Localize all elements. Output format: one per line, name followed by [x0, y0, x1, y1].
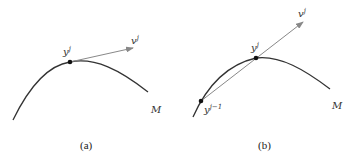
label-yj-b: yj — [250, 41, 260, 53]
label-yj-minus-1-b: yj−1 — [203, 103, 222, 115]
caption-a: (a) — [80, 139, 93, 152]
manifold-curve-a — [13, 61, 148, 120]
caption-b: (b) — [258, 139, 271, 152]
point-yj-b — [254, 56, 259, 61]
secant-vector-b — [201, 22, 303, 101]
label-manifold-b: M — [331, 100, 343, 111]
point-yj-a — [68, 60, 73, 65]
point-yj-minus-1-b — [199, 99, 204, 104]
tangent-vector-a — [70, 48, 133, 62]
panel-b: yj yj−1 vj M (b) — [193, 7, 343, 152]
figure-canvas: yj vj M (a) yj yj−1 vj M (b) — [0, 0, 353, 162]
label-manifold-a: M — [150, 104, 162, 115]
label-yj-a: yj — [62, 45, 72, 57]
label-vj-b: vj — [298, 7, 307, 19]
panel-a: yj vj M (a) — [13, 34, 162, 152]
label-vj-a: vj — [131, 34, 140, 46]
